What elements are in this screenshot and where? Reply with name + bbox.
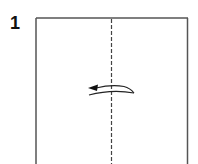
origami-diagram [0, 0, 198, 164]
